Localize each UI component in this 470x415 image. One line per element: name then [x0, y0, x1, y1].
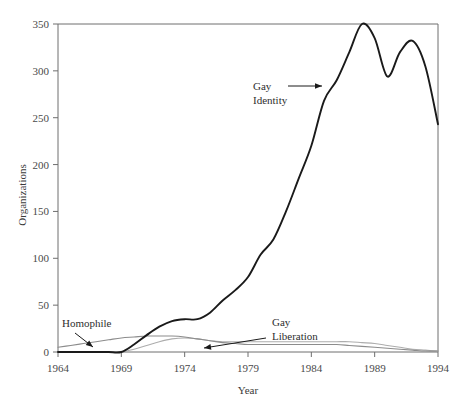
annotation-label: Identity — [253, 94, 288, 106]
x-tick-label: 1974 — [174, 362, 197, 374]
x-tick-label: 1989 — [364, 362, 387, 374]
y-tick-label: 350 — [33, 18, 50, 30]
annotation-label: Homophile — [62, 317, 112, 329]
x-tick-label: 1964 — [47, 362, 70, 374]
annotation-label: Gay — [272, 316, 291, 328]
y-tick-label: 100 — [33, 252, 50, 264]
annotation-label: Liberation — [272, 330, 318, 342]
y-tick-label: 50 — [38, 299, 50, 311]
y-tick-label: 150 — [33, 205, 50, 217]
x-tick-label: 1984 — [300, 362, 323, 374]
chart-container: 050100150200250300350 196419691974197919… — [0, 0, 470, 415]
x-axis-title: Year — [238, 384, 259, 396]
y-tick-label: 0 — [44, 346, 50, 358]
organizations-by-year-line-chart: 050100150200250300350 196419691974197919… — [0, 0, 470, 415]
x-tick-label: 1969 — [110, 362, 133, 374]
y-tick-label: 250 — [33, 112, 50, 124]
y-axis-title: Organizations — [16, 164, 28, 226]
annotation-label: Gay — [253, 80, 272, 92]
x-tick-label: 1994 — [427, 362, 450, 374]
x-tick-label: 1979 — [237, 362, 260, 374]
y-tick-label: 300 — [33, 65, 50, 77]
y-tick-label: 200 — [33, 159, 50, 171]
